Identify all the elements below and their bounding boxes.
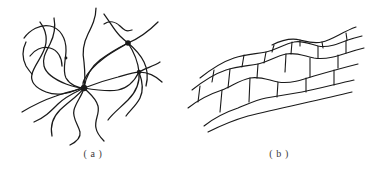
panel-a-polymer-network: ( a ) bbox=[0, 0, 186, 176]
junction-mid-right-node bbox=[137, 70, 141, 74]
polymer-chain-14 bbox=[126, 72, 142, 116]
polymer-chain-19 bbox=[23, 42, 32, 74]
figure-root: ( a ) bbox=[0, 0, 372, 176]
junction-upper-left-node bbox=[65, 57, 68, 60]
band-line-5 bbox=[204, 80, 354, 126]
polymer-chain-8 bbox=[83, 43, 128, 88]
junction-upper-right-node bbox=[125, 40, 131, 46]
brick-divider-r2-4 bbox=[291, 42, 292, 54]
polymer-chain-7 bbox=[83, 8, 96, 88]
junction-center-node bbox=[81, 85, 87, 91]
band-line-6 bbox=[208, 92, 352, 132]
brick-divider-r3-4 bbox=[285, 54, 286, 72]
brick-divider-r2-2 bbox=[242, 55, 244, 67]
lamellar-band-lines bbox=[188, 27, 364, 132]
polymer-chain-3 bbox=[43, 18, 84, 88]
polymer-chain-6 bbox=[84, 88, 104, 141]
polymer-chain-12 bbox=[84, 72, 162, 88]
panel-b-caption: ( b ) bbox=[186, 148, 372, 159]
polymer-chain-13 bbox=[84, 72, 139, 91]
polymer-chain-17 bbox=[104, 22, 132, 31]
polymer-chain-11 bbox=[108, 43, 139, 120]
brick-divider-r4-1 bbox=[220, 90, 222, 112]
brick-divider-r3-3 bbox=[257, 64, 258, 78]
brick-divider-r1-3 bbox=[322, 42, 323, 48]
brick-divider-r1-1 bbox=[272, 45, 274, 52]
brick-divider-r4-3 bbox=[277, 82, 278, 97]
brick-divider-r3-2 bbox=[228, 69, 230, 88]
brick-divider-r1-4 bbox=[346, 33, 347, 40]
panel-b-lamellar-structure: ( b ) bbox=[186, 0, 372, 176]
polymer-chain-1 bbox=[32, 22, 84, 94]
polymer-chain-20 bbox=[139, 62, 160, 72]
panel-a-caption: ( a ) bbox=[0, 148, 186, 159]
panel-b-drawing bbox=[186, 0, 372, 150]
polymer-chain-5 bbox=[70, 88, 84, 145]
polymer-chains bbox=[22, 8, 162, 145]
brick-divider-r4-2 bbox=[249, 78, 250, 102]
panel-a-drawing bbox=[0, 0, 186, 150]
polymer-chain-15 bbox=[30, 47, 62, 66]
